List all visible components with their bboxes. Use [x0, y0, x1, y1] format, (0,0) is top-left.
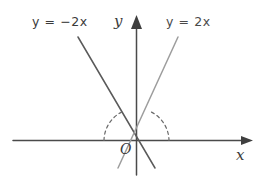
y-axis [131, 15, 142, 175]
y-axis-arrowhead-icon [131, 15, 142, 29]
x-axis [13, 136, 253, 145]
x-axis-arrowhead-icon [241, 136, 253, 145]
equation-label-positive-line: y = 2x [166, 14, 211, 29]
line-y-equals-negative-2x [78, 37, 155, 168]
equation-label-negative-line: y = −2x [32, 14, 88, 29]
origin-label: O [120, 141, 131, 157]
y-axis-label: y [114, 12, 122, 30]
coordinate-plane-figure: y = −2x y = 2x y x O [0, 0, 268, 183]
angle-arc-positive-line [152, 112, 170, 140]
x-axis-label: x [236, 146, 244, 164]
angle-arc-negative-line [104, 112, 122, 140]
